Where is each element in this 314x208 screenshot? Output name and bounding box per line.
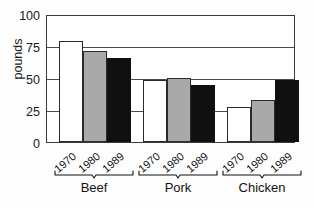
y-tick-label-25: 25 — [14, 106, 40, 119]
bar-chart: pounds 100 75 50 25 0 1970 1980 1989 197… — [0, 0, 314, 208]
group-label-pork: Pork — [138, 181, 218, 195]
y-axis-tick-labels: 100 75 50 25 0 — [12, 0, 40, 208]
group-beef: Beef — [54, 170, 134, 195]
group-label-chicken: Chicken — [222, 181, 302, 195]
group-pork: Pork — [138, 170, 218, 195]
plot-area — [46, 15, 295, 143]
group-label-beef: Beef — [54, 181, 134, 195]
bar-chicken-1970 — [227, 107, 251, 142]
bar-pork-1970 — [143, 80, 167, 142]
bar-chicken-1989 — [275, 80, 299, 142]
bar-beef-1970 — [59, 41, 83, 142]
bar-pork-1989 — [191, 85, 215, 142]
brace-pork-icon — [138, 170, 218, 179]
y-tick-label-50: 50 — [14, 74, 40, 87]
y-tick-label-100: 100 — [14, 10, 40, 23]
brace-beef-icon — [54, 170, 134, 179]
group-chicken: Chicken — [222, 170, 302, 195]
y-tick-label-0: 0 — [14, 138, 40, 151]
gridline-75 — [47, 47, 294, 48]
bar-chicken-1980 — [251, 100, 275, 142]
x-axis-group-labels: Beef Pork Chicken — [46, 170, 295, 208]
brace-chicken-icon — [222, 170, 302, 179]
bar-beef-1989 — [107, 58, 131, 142]
bar-pork-1980 — [167, 78, 191, 142]
bar-beef-1980 — [83, 51, 107, 142]
y-tick-label-75: 75 — [14, 42, 40, 55]
